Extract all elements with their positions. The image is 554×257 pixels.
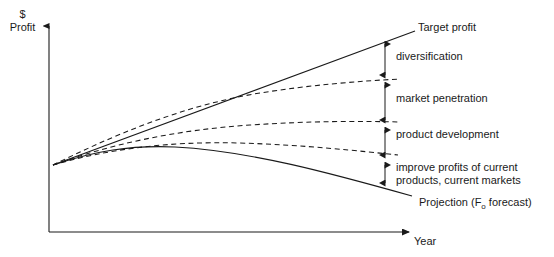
label-improve-profits-line1: improve profits of current	[396, 161, 518, 173]
y-axis-title: $ Profit	[0, 8, 45, 34]
label-improve-profits-line2: products, current markets	[396, 174, 521, 186]
y-axis-title-profit: Profit	[10, 21, 36, 33]
label-diversification: diversification	[396, 50, 463, 63]
label-product-development: product development	[396, 128, 499, 141]
label-target-profit: Target profit	[418, 21, 476, 34]
y-axis-title-currency: $	[19, 8, 25, 20]
gap-analysis-diagram: $ Profit Year Target profit diversificat…	[0, 0, 554, 257]
label-projection: Projection (Fo forecast)	[419, 196, 532, 209]
x-axis-title: Year	[414, 235, 436, 248]
series-projection	[53, 147, 412, 196]
label-improve-profits: improve profits of current products, cur…	[396, 161, 521, 186]
label-projection-suffix: forecast)	[486, 196, 532, 208]
label-market-penetration: market penetration	[396, 92, 488, 105]
label-projection-prefix: Projection (F	[419, 196, 481, 208]
